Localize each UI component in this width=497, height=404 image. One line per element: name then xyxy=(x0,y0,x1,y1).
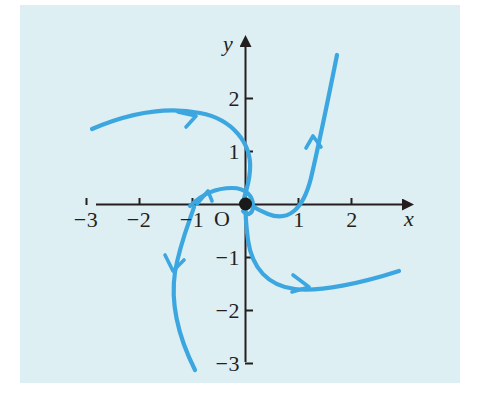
tick-label-y--3: −3 xyxy=(216,353,240,375)
arrow-lower-left xyxy=(165,255,184,271)
tick-label-x--1: −1 xyxy=(180,209,204,231)
tick-label-y--1: −1 xyxy=(216,247,240,269)
tick-label-y-2: 2 xyxy=(229,88,241,110)
tick-label-x--3: −3 xyxy=(74,209,98,231)
tick-label-x-2: 2 xyxy=(346,209,358,231)
tick-label-x--2: −2 xyxy=(127,209,151,231)
origin-equilibrium-dot xyxy=(239,198,252,211)
y-axis-label: y xyxy=(223,33,233,55)
figure-root: −3 −2 −1 1 2 2 1 −1 −2 −3 O x y xyxy=(0,0,497,404)
trajectory-upper-left xyxy=(92,110,250,205)
arrow-lower-right xyxy=(292,275,309,292)
tick-label-y--2: −2 xyxy=(216,300,240,322)
x-axis-label: x xyxy=(404,208,414,230)
arrow-upper-left xyxy=(178,112,196,127)
trajectory-lower-right xyxy=(246,205,399,290)
trajectory-right-up xyxy=(246,55,337,216)
tick-label-y-1: 1 xyxy=(229,141,241,163)
origin-label: O xyxy=(214,208,230,230)
phase-portrait-plot xyxy=(0,0,497,404)
tick-label-x-1: 1 xyxy=(293,209,305,231)
